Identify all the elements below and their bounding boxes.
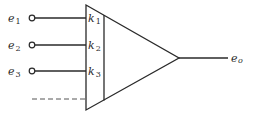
- input-2-terminal: [29, 42, 35, 48]
- input-3-label: e3: [8, 65, 21, 79]
- amplifier-diagram: e1 k1 e2 k2 e3 k3 eo: [0, 0, 254, 114]
- input-3: e3 k3: [8, 65, 101, 79]
- gain-1-label: k1: [88, 12, 101, 26]
- output-label: eo: [231, 52, 243, 65]
- input-1-label: e1: [8, 12, 21, 26]
- gain-2-label: k2: [88, 39, 101, 53]
- input-3-terminal: [29, 68, 35, 74]
- input-1: e1 k1: [8, 12, 101, 26]
- input-2: e2 k2: [8, 39, 101, 53]
- input-1-terminal: [29, 15, 35, 21]
- input-2-label: e2: [8, 39, 21, 53]
- gain-3-label: k3: [88, 65, 101, 79]
